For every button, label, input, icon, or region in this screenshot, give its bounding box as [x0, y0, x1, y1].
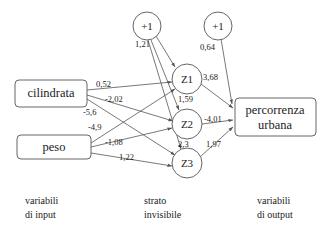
weight-peso-z3: 1,22	[119, 152, 134, 162]
node-z2: Z2	[172, 109, 202, 139]
node-z3-label: Z3	[181, 157, 194, 169]
weight-bias-hidden-z3: 2,3	[178, 139, 189, 149]
node-bias-output: +1	[204, 12, 232, 40]
weight-z3-output: 1,97	[206, 139, 221, 149]
weight-peso-z1: -4,9	[88, 122, 101, 132]
caption-output-line1: variabili	[257, 195, 291, 206]
weight-z1-output: 3,68	[203, 72, 218, 82]
weight-cilindrata-z3: -5,6	[83, 107, 96, 117]
edge-bias-hidden-z1	[156, 36, 175, 67]
weight-z2-output: -4,01	[204, 114, 222, 124]
node-output-label-line2: urbana	[258, 118, 292, 132]
edge-bias-output-output	[221, 39, 232, 104]
caption-output-line2: di output	[257, 209, 293, 220]
caption-input-line1: variabili	[25, 195, 59, 206]
node-bias-hidden-label: +1	[141, 20, 153, 32]
weight-peso-z2: -1,08	[105, 137, 123, 147]
weight-bias-output-output: 0,64	[200, 42, 216, 52]
edge-peso-z2	[91, 128, 172, 147]
caption-hidden-line1: strato	[144, 195, 166, 206]
node-cilindrata: cilindrata	[15, 80, 87, 107]
node-z2-label: Z2	[181, 118, 193, 130]
weight-cilindrata-z1: 0,52	[96, 79, 111, 89]
node-z1-label: Z1	[181, 73, 193, 85]
neural-network-diagram: +1 +1 cilindrata peso Z1 Z2 Z3 percorren…	[0, 0, 328, 232]
node-peso: peso	[17, 135, 91, 159]
node-bias-output-label: +1	[212, 20, 224, 32]
node-cilindrata-label: cilindrata	[27, 86, 75, 100]
caption-hidden-line2: invisibile	[144, 209, 182, 220]
node-z1: Z1	[172, 64, 202, 94]
node-bias-hidden: +1	[133, 12, 161, 40]
caption-input-line2: di input	[25, 209, 56, 220]
weight-cilindrata-z2: -2,02	[105, 94, 123, 104]
edge-z1-output	[201, 84, 233, 108]
captions: variabili di input strato invisibile var…	[25, 195, 293, 220]
weight-bias-hidden-z2: 1,59	[178, 94, 193, 104]
node-output: percorrenza urbana	[235, 98, 316, 136]
node-output-label-line1: percorrenza	[246, 103, 305, 117]
node-peso-label: peso	[43, 140, 66, 154]
node-z3: Z3	[172, 148, 202, 178]
weight-labels: 1,21 1,59 2,3 0,52 -2,02 -5,6 -4,9 -1,08…	[83, 39, 222, 162]
weight-bias-hidden-z1: 1,21	[135, 39, 150, 49]
edge-peso-z1	[91, 89, 175, 143]
